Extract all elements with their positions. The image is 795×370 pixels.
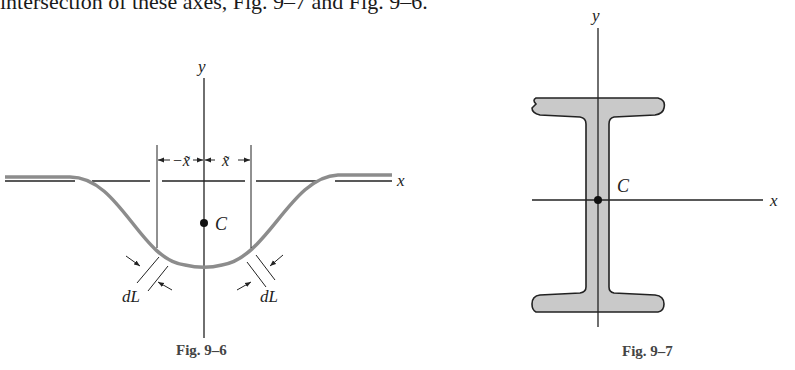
x-axis-label: x — [769, 191, 778, 210]
centroid-point — [594, 196, 602, 204]
dl-label-right: dL — [260, 287, 278, 306]
x-axis-label: x — [396, 171, 405, 190]
y-axis-label: y — [590, 6, 600, 25]
figure-caption: Fig. 9–6 — [176, 342, 227, 358]
dl-element-left — [126, 256, 172, 291]
neg-x-tilde-label: −x̃ — [172, 152, 191, 169]
y-axis-label: y — [196, 57, 206, 76]
centroid-point — [200, 219, 208, 227]
centroid-label: C — [215, 214, 228, 234]
figure-9-7: y x C Fig. 9–7 — [532, 6, 778, 359]
wire-curve — [5, 175, 392, 267]
figure-9-6: y x −x̃ x̃ C dL — [5, 57, 405, 358]
figure-caption: Fig. 9–7 — [622, 343, 673, 359]
centroid-label: C — [617, 176, 630, 196]
figure-canvas: y x −x̃ x̃ C dL — [0, 0, 795, 370]
x-tilde-label: x̃ — [221, 152, 230, 169]
dl-label-left: dL — [122, 287, 140, 306]
dl-element-right — [237, 255, 283, 290]
